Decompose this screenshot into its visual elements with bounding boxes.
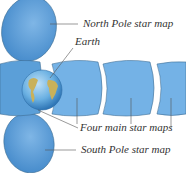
main-map-4 bbox=[157, 62, 186, 116]
label-four-main: Four main star maps bbox=[80, 122, 173, 133]
south-pole-map bbox=[0, 109, 59, 173]
earth-globe bbox=[22, 70, 62, 110]
label-earth: Earth bbox=[75, 36, 100, 47]
label-south-pole: South Pole star map bbox=[81, 144, 171, 155]
main-map-3 bbox=[103, 60, 154, 116]
label-north-pole: North Pole star map bbox=[83, 18, 173, 29]
north-pole-map bbox=[0, 0, 64, 68]
